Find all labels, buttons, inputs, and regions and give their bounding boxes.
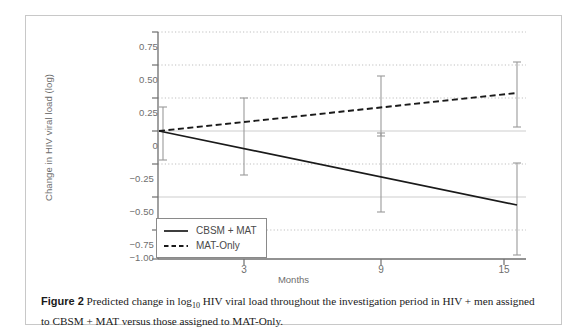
legend-swatch-solid-icon xyxy=(163,226,189,236)
legend[interactable]: CBSM + MAT MAT-Only xyxy=(156,218,267,258)
figure-caption-subscript: 10 xyxy=(192,301,200,310)
figure-caption-part1: Predicted change in log xyxy=(84,295,192,307)
gridlines-group xyxy=(158,32,526,230)
legend-label-cbsm-mat: CBSM + MAT xyxy=(196,225,257,236)
series-lines-group xyxy=(159,93,517,205)
series-line-mat-only xyxy=(159,93,517,131)
figure-caption-label: Figure 2 xyxy=(41,295,84,307)
legend-swatch-dashed-icon xyxy=(163,241,189,251)
figure-container: Change in HIV viral load (log) 0.75 0.50… xyxy=(25,15,562,325)
chart-plot-region: Change in HIV viral load (log) 0.75 0.50… xyxy=(26,16,561,291)
chart-canvas xyxy=(26,16,561,291)
legend-item-mat-only[interactable]: MAT-Only xyxy=(163,238,257,253)
legend-label-mat-only: MAT-Only xyxy=(196,240,240,251)
figure-caption: Figure 2 Predicted change in log10 HIV v… xyxy=(41,294,546,328)
x-tick-marks-group xyxy=(244,259,504,265)
series-line-cbsm-mat xyxy=(159,131,517,205)
legend-item-cbsm-mat[interactable]: CBSM + MAT xyxy=(163,223,257,238)
